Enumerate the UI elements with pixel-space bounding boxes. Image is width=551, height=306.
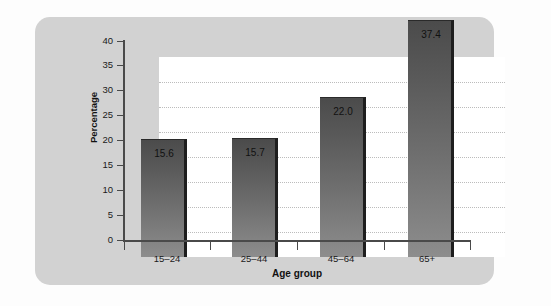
x-tick-0 bbox=[124, 242, 125, 250]
bar-value-65plus: 37.4 bbox=[401, 29, 461, 40]
y-tick-15 bbox=[117, 165, 123, 166]
y-axis-line bbox=[123, 40, 125, 241]
bar-value-15-24: 15.6 bbox=[134, 148, 194, 159]
y-tick-0 bbox=[117, 240, 123, 241]
bar-65plus[interactable] bbox=[408, 20, 454, 257]
y-tick-35 bbox=[117, 65, 123, 66]
x-axis-title: Age group bbox=[124, 268, 470, 279]
y-tick-20 bbox=[117, 140, 123, 141]
y-tick-label-15: 15 bbox=[83, 160, 113, 170]
y-tick-label-40: 40 bbox=[83, 36, 113, 46]
bar-value-25-44: 15.7 bbox=[225, 147, 285, 158]
y-tick-label-35: 35 bbox=[83, 60, 113, 70]
y-tick-10 bbox=[117, 190, 123, 191]
y-tick-30 bbox=[117, 90, 123, 91]
y-tick-label-0: 0 bbox=[83, 235, 113, 245]
y-tick-25 bbox=[117, 115, 123, 116]
y-axis-title: Percentage bbox=[88, 92, 99, 143]
bar-value-45-64: 22.0 bbox=[313, 106, 373, 117]
x-category-label-65plus: 65+ bbox=[387, 253, 467, 264]
x-tick-3 bbox=[384, 242, 385, 250]
x-category-label-25-44: 25–44 bbox=[214, 253, 294, 264]
y-tick-5 bbox=[117, 215, 123, 216]
y-tick-label-10: 10 bbox=[83, 185, 113, 195]
bar-45-64[interactable] bbox=[320, 97, 366, 257]
y-axis-tick-labels: 40 35 30 25 20 15 10 5 0 bbox=[83, 0, 113, 306]
x-category-label-15-24: 15–24 bbox=[127, 253, 207, 264]
x-tick-2 bbox=[297, 242, 298, 250]
x-tick-1 bbox=[210, 242, 211, 250]
y-tick-40 bbox=[117, 41, 123, 42]
y-tick-label-5: 5 bbox=[83, 210, 113, 220]
x-tick-4 bbox=[470, 242, 471, 250]
x-category-label-45-64: 45–64 bbox=[301, 253, 381, 264]
